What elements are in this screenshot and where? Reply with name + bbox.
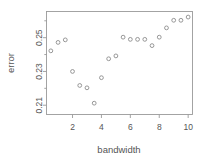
x-axis-title: bandwidth [97, 144, 140, 155]
y-tick-label: 0.23 [35, 63, 45, 80]
y-axis-title: error [5, 53, 16, 73]
y-axis-tick-labels: 0.210.230.25 [35, 29, 45, 113]
x-tick-label: 8 [157, 122, 162, 132]
x-tick-label: 2 [70, 122, 75, 132]
y-tick-label: 0.25 [35, 29, 45, 46]
x-tick-label: 10 [183, 122, 193, 132]
x-tick-label: 4 [99, 122, 104, 132]
scatter-plot-figure: 246810 0.210.230.25 bandwidth error [0, 0, 207, 161]
x-tick-label: 6 [128, 122, 133, 132]
figure-background [0, 0, 207, 161]
y-tick-label: 0.21 [35, 97, 45, 114]
chart-canvas: 246810 0.210.230.25 bandwidth error [0, 0, 207, 161]
